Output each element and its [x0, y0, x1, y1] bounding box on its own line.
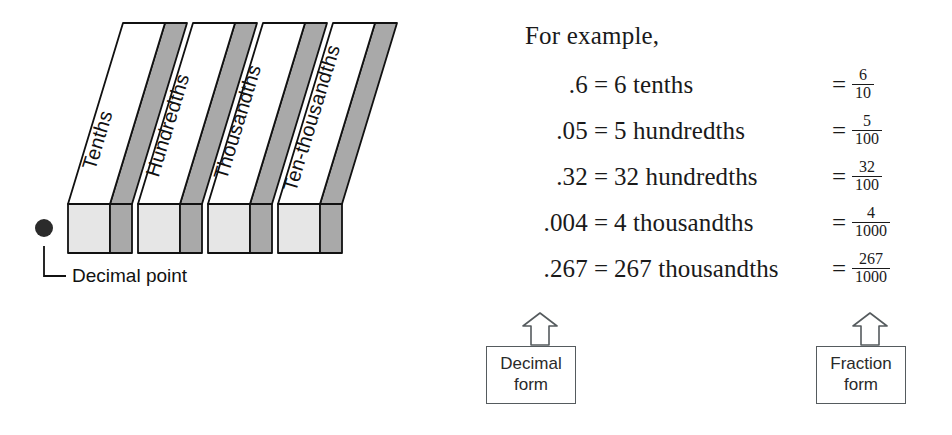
equals-sign-fraction: = — [826, 163, 852, 191]
examples-row-list: .6 = 6 tenths = 6 10 .05 = 5 hundredths … — [470, 62, 952, 292]
fraction-form-line2: form — [817, 375, 905, 396]
decimal-form-arrow-wrap — [478, 312, 598, 346]
fraction-numerator: 32 — [856, 159, 878, 175]
example-fraction: 5 100 — [852, 114, 882, 148]
fraction-numerator: 4 — [864, 205, 878, 221]
example-row: .05 = 5 hundredths = 5 100 — [470, 108, 952, 154]
decimal-form-box: Decimal form — [486, 346, 576, 404]
decimal-point-label: Decimal point — [72, 265, 188, 286]
bar-hundredths-front-face — [138, 204, 180, 253]
fraction-form-box: Fraction form — [816, 346, 906, 404]
fraction-form-line1: Fraction — [817, 354, 905, 375]
decimal-form-line1: Decimal — [487, 354, 575, 375]
example-row: .004 = 4 thousandths = 4 1000 — [470, 200, 952, 246]
equals-sign-fraction: = — [826, 71, 852, 99]
example-words: 267 thousandths — [614, 255, 826, 283]
decimal-point-dot — [35, 219, 53, 237]
example-words: 32 hundredths — [614, 163, 826, 191]
fraction-numerator: 5 — [860, 113, 874, 129]
fraction-numerator: 267 — [856, 251, 886, 267]
fraction-form-arrow-wrap — [808, 312, 928, 346]
equals-sign-words: = — [588, 255, 614, 283]
fraction-denominator: 1000 — [852, 222, 890, 239]
decimal-point-leader-line — [44, 246, 66, 276]
example-decimal: .05 — [470, 117, 588, 145]
bar-tenths-front-face — [68, 204, 110, 253]
up-arrow-icon — [478, 312, 598, 346]
bars-svg: Tenths Hundredths Thousandths — [0, 0, 470, 435]
example-row: .32 = 32 hundredths = 32 100 — [470, 154, 952, 200]
bar-ten-thousandths-front-side-face — [320, 204, 342, 253]
decimal-form-line2: form — [487, 375, 575, 396]
example-fraction: 6 10 — [852, 68, 874, 102]
fraction-denominator: 100 — [852, 130, 882, 147]
equals-sign-fraction: = — [826, 117, 852, 145]
fraction-denominator: 10 — [852, 84, 874, 101]
fraction-denominator: 1000 — [852, 268, 890, 285]
equals-sign-words: = — [588, 117, 614, 145]
equals-sign-words: = — [588, 209, 614, 237]
example-row: .6 = 6 tenths = 6 10 — [470, 62, 952, 108]
bar-hundredths-front-side-face — [180, 204, 202, 253]
bar-thousandths-front-face — [208, 204, 250, 253]
bar-ten-thousandths-front-face — [278, 204, 320, 253]
bar-tenths-front-side-face — [110, 204, 132, 253]
up-arrow-icon — [808, 312, 928, 346]
example-row: .267 = 267 thousandths = 267 1000 — [470, 246, 952, 292]
illustration-root: Tenths Hundredths Thousandths — [0, 0, 952, 435]
example-fraction: 32 100 — [852, 160, 882, 194]
bar-thousandths-front-side-face — [250, 204, 272, 253]
callout-decimal-form: Decimal form — [478, 312, 598, 404]
example-words: 5 hundredths — [614, 117, 826, 145]
example-fraction: 267 1000 — [852, 252, 890, 286]
examples-panel: For example, .6 = 6 tenths = 6 10 .05 = … — [470, 0, 952, 435]
equals-sign-fraction: = — [826, 209, 852, 237]
callout-fraction-form: Fraction form — [808, 312, 928, 404]
examples-heading: For example, — [525, 22, 659, 50]
example-decimal: .004 — [470, 209, 588, 237]
example-fraction: 4 1000 — [852, 206, 890, 240]
equals-sign-fraction: = — [826, 255, 852, 283]
fraction-numerator: 6 — [856, 67, 870, 83]
example-decimal: .6 — [470, 71, 588, 99]
equals-sign-words: = — [588, 71, 614, 99]
place-value-bar-diagram: Tenths Hundredths Thousandths — [0, 0, 470, 435]
example-words: 6 tenths — [614, 71, 826, 99]
example-decimal: .267 — [470, 255, 588, 283]
example-words: 4 thousandths — [614, 209, 826, 237]
equals-sign-words: = — [588, 163, 614, 191]
example-decimal: .32 — [470, 163, 588, 191]
fraction-denominator: 100 — [852, 176, 882, 193]
